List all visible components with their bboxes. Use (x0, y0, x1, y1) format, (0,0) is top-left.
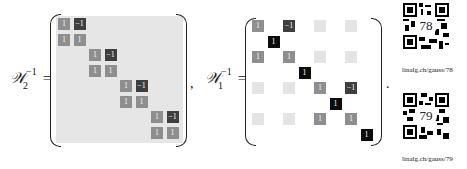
qr-number: 78 (415, 16, 437, 36)
matrix-cell: 1 (120, 96, 132, 108)
matrix-cell: 1 (105, 65, 117, 77)
matrix-cell: −1 (136, 80, 148, 92)
matrix-cell: 1 (283, 51, 295, 63)
matrix-cell: 1 (58, 34, 70, 46)
matrix-cell (252, 113, 264, 125)
qr-link-79[interactable]: linalg.ch/gauss/79 (402, 155, 453, 163)
matrix-cell: 1 (268, 36, 280, 48)
superscript: −1 (221, 66, 232, 77)
matrix-cell: 1 (299, 67, 311, 79)
qr-number: 79 (415, 106, 437, 126)
matrix-cell: 1 (120, 80, 132, 92)
lhs-w1-inverse: 𝒲1−1= (205, 70, 246, 87)
period: . (386, 76, 390, 92)
matrix-cell: 1 (314, 82, 326, 94)
matrix-cell: 1 (330, 98, 342, 110)
matrix-cell (283, 113, 295, 125)
matrix-cell (314, 51, 326, 63)
matrix-cell (345, 20, 357, 32)
superscript: −1 (26, 66, 37, 77)
matrix-cell: −1 (345, 82, 357, 94)
comma: , (190, 76, 194, 92)
matrix-cell: 1 (345, 113, 357, 125)
matrix-cell: 1 (58, 18, 70, 30)
matrix-cell (252, 82, 264, 94)
matrix-cell: 1 (314, 113, 326, 125)
matrix-cell: 1 (89, 65, 101, 77)
matrix-cell (283, 82, 295, 94)
matrix-cell (345, 51, 357, 63)
matrix-cell: 1 (74, 34, 86, 46)
right-paren (176, 14, 187, 147)
right-paren (371, 18, 382, 146)
matrix-cell: 1 (252, 20, 264, 32)
subscript: 2 (23, 80, 28, 91)
qr-code-79[interactable]: 79 (403, 93, 449, 139)
matrix-cell: −1 (283, 20, 295, 32)
matrix-cell: 1 (136, 96, 148, 108)
qr-link-78[interactable]: linalg.ch/gauss/78 (402, 66, 453, 74)
qr-code-78[interactable]: 78 (403, 3, 449, 49)
lhs-w2-inverse: 𝒲2−1= (10, 70, 51, 87)
matrix-cell: −1 (74, 18, 86, 30)
matrix-cell: 1 (151, 127, 163, 139)
matrix-cell: 1 (252, 51, 264, 63)
matrix-cell: 1 (151, 111, 163, 123)
subscript: 1 (218, 80, 223, 91)
matrix-cell (314, 20, 326, 32)
matrix-cell: 1 (89, 49, 101, 61)
matrix-cell: −1 (105, 49, 117, 61)
